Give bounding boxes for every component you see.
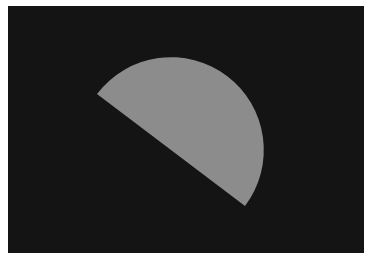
scene: [0, 0, 371, 257]
